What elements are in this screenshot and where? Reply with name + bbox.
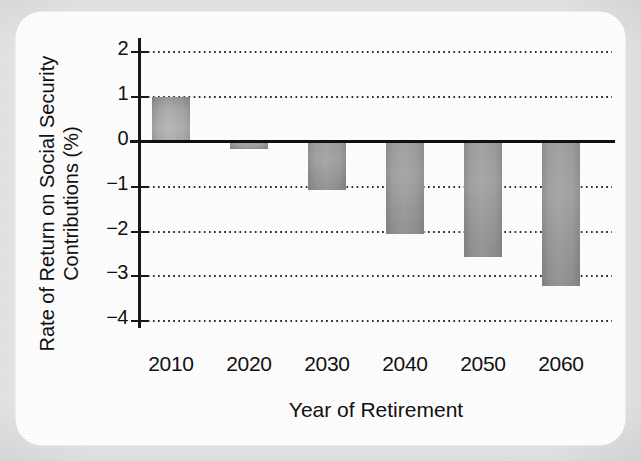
- y-tick-label--4: −4: [94, 306, 128, 329]
- y-tick--3: [131, 275, 148, 277]
- bar-2060: [542, 143, 580, 286]
- bar-2030: [308, 143, 346, 190]
- y-axis-title: Rate of Return on Social SecurityContrib…: [36, 39, 83, 369]
- y-axis-spine: [138, 38, 141, 328]
- bar-2020: [230, 143, 268, 150]
- y-tick--4: [131, 320, 148, 322]
- x-tick-label-2050: 2050: [438, 352, 528, 376]
- gridline-1: [141, 96, 612, 98]
- scanned-page-background: 2 1 0 −1 −2 −3 −4 2010 2020 2030 2040 20…: [0, 0, 641, 461]
- bar-2010: [152, 97, 190, 142]
- y-tick-label-0: 0: [94, 127, 128, 150]
- y-tick-0: [131, 141, 148, 143]
- x-tick-label-2020: 2020: [204, 352, 294, 376]
- x-tick-label-2060: 2060: [516, 352, 606, 376]
- bar-chart: 2 1 0 −1 −2 −3 −4 2010 2020 2030 2040 20…: [0, 0, 641, 461]
- y-tick-label--1: −1: [94, 172, 128, 195]
- x-tick-label-2010: 2010: [126, 352, 216, 376]
- y-axis-title-line1: Rate of Return on Social Security: [36, 56, 58, 352]
- x-axis-title: Year of Retirement: [140, 398, 612, 422]
- y-tick-1: [131, 96, 148, 98]
- bar-2050: [464, 143, 502, 257]
- gridline--4: [141, 320, 612, 322]
- y-tick--1: [131, 186, 148, 188]
- y-tick-label-2: 2: [94, 37, 128, 60]
- gridline-2: [141, 51, 612, 53]
- y-tick-2: [131, 51, 148, 53]
- y-tick-label--2: −2: [94, 217, 128, 240]
- zero-baseline: [130, 140, 615, 143]
- x-tick-label-2030: 2030: [282, 352, 372, 376]
- bar-2040: [386, 143, 424, 235]
- y-tick-label--3: −3: [94, 261, 128, 284]
- y-tick--2: [131, 231, 148, 233]
- y-axis-title-line2: Contributions (%): [60, 126, 82, 281]
- y-tick-label-1: 1: [94, 82, 128, 105]
- x-tick-label-2040: 2040: [360, 352, 450, 376]
